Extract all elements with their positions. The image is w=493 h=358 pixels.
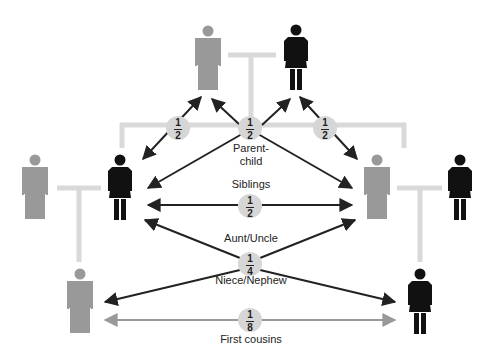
badge-right-parent-child: 12 bbox=[313, 116, 337, 140]
person-right-child bbox=[408, 269, 432, 335]
person-left-spouse bbox=[22, 155, 48, 220]
label-aunt-uncle: Aunt/Uncle bbox=[201, 232, 301, 245]
relatedness-diagram: 12 12 12 12 14 18 Parent- child Siblings… bbox=[0, 0, 493, 358]
female-figure-icon bbox=[108, 155, 132, 221]
male-figure-icon bbox=[195, 26, 221, 91]
person-right-parent bbox=[364, 155, 390, 220]
badge-first-cousins: 18 bbox=[238, 308, 262, 332]
person-left-parent bbox=[108, 155, 132, 221]
label-parent-child-1: Parent- bbox=[226, 142, 276, 155]
badge-parent-child: 12 bbox=[238, 116, 262, 140]
label-siblings: Siblings bbox=[211, 178, 291, 191]
male-figure-icon bbox=[67, 269, 93, 334]
female-figure-icon bbox=[284, 25, 308, 91]
badge-siblings: 12 bbox=[238, 194, 262, 218]
person-grandmother bbox=[284, 25, 308, 91]
female-figure-icon bbox=[408, 269, 432, 335]
male-figure-icon bbox=[22, 155, 48, 220]
person-grandfather bbox=[195, 26, 221, 91]
person-left-child bbox=[67, 269, 93, 334]
label-niece-nephew: Niece/Nephew bbox=[196, 274, 306, 287]
person-right-spouse bbox=[448, 155, 472, 221]
female-figure-icon bbox=[448, 155, 472, 221]
badge-aunt-uncle: 14 bbox=[238, 252, 262, 276]
male-figure-icon bbox=[364, 155, 390, 220]
label-first-cousins: First cousins bbox=[196, 333, 306, 346]
badge-left-parent-child: 12 bbox=[166, 116, 190, 140]
label-parent-child-2: child bbox=[226, 155, 276, 168]
